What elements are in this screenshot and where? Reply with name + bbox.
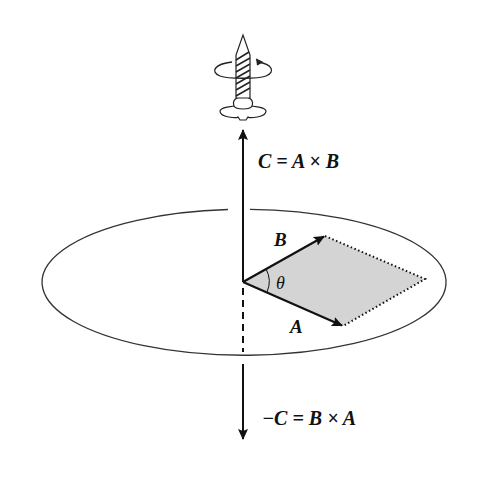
cross-product-diagram: C = A × B B θ A −C = B × A [0, 0, 483, 478]
c-equation-label: C = A × B [258, 150, 339, 172]
vector-b-label: B [273, 229, 287, 250]
parallelogram-area [243, 236, 425, 326]
neg-c-equation-label: −C = B × A [262, 407, 356, 429]
vector-a-label: A [289, 316, 303, 337]
angle-theta-label: θ [276, 273, 285, 293]
